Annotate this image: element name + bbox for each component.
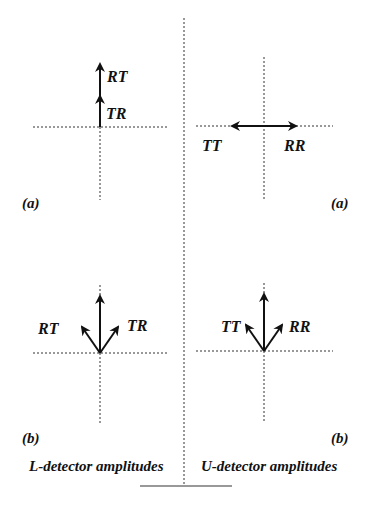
u-b-rr-label: RR [288,318,311,335]
l-b-rt-arrow [82,327,100,353]
u-panel-b: TT RR (b) [196,283,349,447]
l-a-rt-label: RT [106,68,129,85]
u-a-rr-label: RR [283,137,306,154]
l-panel-b: RT TR (b) [22,285,167,447]
l-a-tr-label: TR [106,105,127,122]
u-b-tt-label: TT [221,318,242,335]
l-b-rt-label: RT [37,320,60,337]
u-a-panel-label: (a) [331,195,349,212]
u-a-tt-label: TT [202,137,223,154]
u-b-panel-label: (b) [331,430,349,447]
l-b-panel-label: (b) [22,430,40,447]
u-b-tt-arrow [246,325,264,351]
l-b-tr-label: TR [127,317,148,334]
l-b-tr-arrow [100,327,118,353]
u-detector-caption: U-detector amplitudes [201,458,337,474]
l-a-panel-label: (a) [22,195,40,212]
l-panel-a: RT TR (a) [22,64,167,212]
u-panel-a: TT RR (a) [196,57,349,212]
l-detector-caption: L-detector amplitudes [28,458,164,474]
u-b-rr-arrow [264,325,282,351]
amplitude-diagram: RT TR (a) TT RR (a) RT TR (b) TT RR (b) … [0,0,371,507]
